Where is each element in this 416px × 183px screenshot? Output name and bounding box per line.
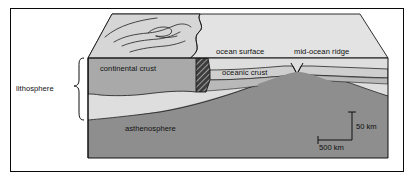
label-lithosphere: lithosphere [16, 84, 54, 93]
label-continental-crust: continental crust [100, 64, 157, 73]
label-ocean-surface: ocean surface [216, 47, 264, 56]
label-scale-vertical: 50 km [356, 122, 377, 131]
block-diagram: lithosphere continental crust ocean surf… [0, 0, 416, 183]
lithosphere-brace-group [74, 58, 84, 120]
lithosphere-brace [74, 58, 84, 120]
label-asthenosphere: asthenosphere [125, 124, 176, 133]
label-oceanic-crust: oceanic crust [222, 68, 268, 77]
label-mid-ocean-ridge: mid-ocean ridge [294, 47, 349, 56]
top-land-surface [88, 14, 202, 58]
figure-root: lithosphere continental crust ocean surf… [0, 0, 416, 183]
label-scale-horizontal: 500 km [319, 143, 344, 152]
subduction-wedge [196, 58, 210, 92]
